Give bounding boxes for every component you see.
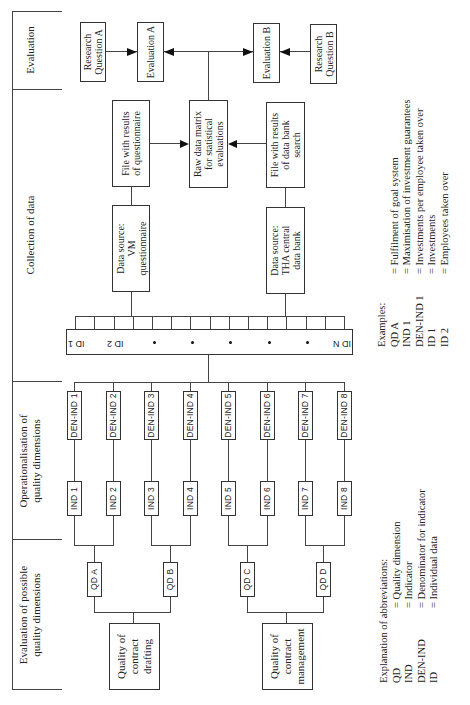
examples-legend: Examples: QD A= Fulfilment of goal syste… [376, 7, 451, 347]
connector [170, 597, 171, 613]
legend-row: QD= Quality dimension [391, 489, 404, 683]
den-ind-box-5: DEN-IND 5 [221, 391, 236, 440]
connector [305, 440, 306, 481]
connector [74, 440, 75, 481]
den-ind-box-8: DEN-IND 8 [337, 391, 352, 440]
connector [285, 294, 286, 317]
header-divider-2 [12, 381, 62, 382]
abbr: DEN-IND [416, 608, 429, 683]
connector [228, 440, 229, 481]
ind-box-2: IND 2 [106, 481, 121, 516]
legend-row: ID= Individual data [428, 489, 441, 683]
connector [170, 546, 171, 562]
qd-box-d: QD D [316, 562, 331, 597]
id-placeholder-dot [306, 341, 309, 344]
connector [267, 516, 268, 546]
connector [151, 383, 152, 391]
connector [151, 545, 190, 546]
connector [208, 355, 209, 383]
legend-row: IND= Indicator [403, 489, 416, 683]
meaning: = Employees taken over [439, 100, 452, 274]
id-placeholder-dot [268, 341, 271, 344]
connector [151, 516, 152, 546]
connector [285, 188, 286, 207]
examples-title: Examples: [376, 7, 389, 347]
quality-area-management: Quality of contract management [262, 623, 313, 690]
arrow-icon [280, 48, 290, 56]
connector [190, 383, 191, 391]
id-comb-tick [190, 317, 191, 329]
meaning: = Fulfilment of goal system [389, 100, 402, 274]
connector [190, 440, 191, 481]
quality-area-drafting: Quality of contract drafting [109, 623, 160, 690]
abbreviations-table: QD= Quality dimension IND= Indicator DEN… [391, 489, 441, 683]
connector [113, 440, 114, 481]
id-comb-tick [210, 317, 211, 329]
process-diagram: Evaluation of possible quality dimension… [0, 0, 470, 705]
id-comb-tick [152, 317, 153, 329]
meaning: = Quality dimension [391, 489, 404, 608]
legend-row: ID 2= Employees taken over [439, 100, 452, 347]
abbr: QD A [389, 274, 402, 347]
ind-box-6: IND 6 [260, 481, 275, 516]
den-ind-box-4: DEN-IND 4 [183, 391, 198, 440]
id-comb-tick [133, 317, 134, 329]
id-placeholder-dot [153, 341, 156, 344]
header-end-line-left [12, 689, 62, 690]
header-top-line [12, 12, 13, 690]
abbr: ID 1 [426, 274, 439, 347]
abbreviations-title: Explanation of abbreviations: [378, 403, 391, 683]
connector [228, 516, 229, 546]
den-ind-box-6: DEN-IND 6 [260, 391, 275, 440]
id-label-1: ID 1 [68, 333, 85, 349]
qd-box-c: QD C [240, 562, 255, 597]
file-questionnaire-results: File with results of questionnaire [112, 100, 150, 187]
connector [237, 143, 266, 144]
connector [267, 440, 268, 481]
id-comb-tick [94, 317, 95, 329]
abbreviations-legend: Explanation of abbreviations: QD= Qualit… [378, 403, 441, 683]
qd-box-b: QD B [163, 562, 178, 597]
den-ind-box-2: DEN-IND 2 [106, 391, 121, 440]
connector [113, 516, 114, 546]
id-label-n: ID N [333, 333, 351, 349]
abbr: QD [391, 608, 404, 683]
id-comb-tick [114, 317, 115, 329]
connector [150, 143, 180, 144]
arrow-icon [180, 140, 189, 148]
connector [74, 545, 113, 546]
ind-box-8: IND 8 [337, 481, 352, 516]
meaning: = Investments [426, 100, 439, 274]
id-comb-tick [229, 317, 230, 329]
id-placeholder-dot [191, 341, 194, 344]
den-ind-box-7: DEN-IND 7 [298, 391, 313, 440]
meaning: = Denominator for indicator [416, 489, 429, 608]
abbr: IND [403, 608, 416, 683]
evaluation-a-box: Evaluation A [137, 22, 164, 82]
examples-table: QD A= Fulfilment of goal system IND 1= M… [389, 100, 452, 347]
raw-data-matrix: Raw data matrix for statistical evaluati… [189, 100, 228, 188]
connector [131, 187, 132, 205]
connector [267, 383, 268, 391]
connector [113, 383, 114, 391]
connector [94, 546, 95, 562]
connector [133, 613, 134, 623]
connector [344, 440, 345, 481]
connector [305, 516, 306, 546]
arrow-icon [164, 48, 174, 56]
id-comb-tick [248, 317, 249, 329]
header-collection: Collection of data [14, 95, 46, 375]
id-comb-tick [306, 317, 307, 329]
connector [74, 383, 75, 391]
research-question-b-box: Research Question B [310, 24, 337, 84]
abbr: ID [428, 608, 441, 683]
den-ind-bus [74, 382, 345, 383]
connector [228, 383, 229, 391]
connector [247, 597, 248, 613]
header-end-line-right [12, 11, 62, 12]
id-comb-tick [344, 317, 345, 329]
ind-box-5: IND 5 [221, 481, 236, 516]
header-evaluation: Evaluation [14, 15, 46, 85]
connector [323, 597, 324, 613]
arrow-icon [228, 140, 237, 148]
